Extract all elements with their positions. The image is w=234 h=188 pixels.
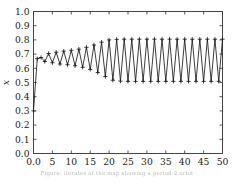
- figure-caption: Figure: iterates of the map showing a pe…: [0, 170, 234, 188]
- svg-text:35: 35: [160, 156, 172, 167]
- chart-plot-area: 0.00.10.20.30.40.50.60.70.80.91.0 0.0510…: [0, 0, 234, 168]
- x-axis-title: n: [125, 166, 131, 169]
- svg-text:5: 5: [49, 156, 55, 167]
- data-series-line: [34, 39, 223, 111]
- svg-text:1.0: 1.0: [15, 6, 30, 17]
- svg-text:0.2: 0.2: [15, 119, 30, 130]
- svg-text:0.5: 0.5: [15, 77, 30, 88]
- svg-text:0.1: 0.1: [15, 134, 30, 145]
- svg-text:0.0: 0.0: [26, 156, 41, 167]
- svg-text:0.7: 0.7: [15, 48, 30, 59]
- figure-container: 0.00.10.20.30.40.50.60.70.80.91.0 0.0510…: [0, 0, 234, 188]
- svg-text:0.8: 0.8: [15, 34, 30, 45]
- svg-text:10: 10: [65, 156, 77, 167]
- y-axis-tick-labels: 0.00.10.20.30.40.50.60.70.80.91.0: [15, 6, 30, 159]
- svg-text:50: 50: [217, 156, 229, 167]
- svg-text:40: 40: [179, 156, 191, 167]
- svg-text:30: 30: [141, 156, 153, 167]
- svg-text:0.4: 0.4: [15, 91, 30, 102]
- svg-text:20: 20: [103, 156, 115, 167]
- svg-text:0.3: 0.3: [15, 105, 30, 116]
- svg-text:0.9: 0.9: [15, 20, 30, 31]
- svg-text:15: 15: [84, 156, 96, 167]
- y-axis-title: x: [0, 79, 11, 85]
- line-chart: 0.00.10.20.30.40.50.60.70.80.91.0 0.0510…: [0, 0, 234, 168]
- svg-text:0.6: 0.6: [15, 63, 30, 74]
- svg-text:45: 45: [198, 156, 210, 167]
